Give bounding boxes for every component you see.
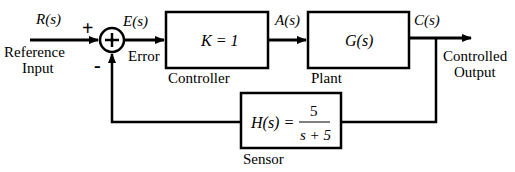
controller-expression: K = 1 [200,32,238,49]
output-signal-label: C(s) [414,12,440,29]
error-signal-label: E(s) [122,13,148,30]
minus-sign-label: - [94,54,101,76]
sensor-label: Sensor [243,151,284,167]
reference-input-label-line1: Reference [4,44,65,60]
error-label: Error [128,48,160,64]
reference-signal-label: R(s) [35,11,61,28]
controller-label: Controller [168,70,230,86]
summing-junction [100,28,124,52]
controlled-output-label-line2: Output [454,64,497,80]
plant-expression: G(s) [345,32,373,50]
sensor-numerator: 5 [310,103,318,119]
plant-label: Plant [311,70,343,86]
reference-input-label-line2: Input [22,60,54,76]
sensor-expression-lhs: H(s) = [250,114,294,132]
actuating-signal-label: A(s) [274,12,300,29]
controlled-output-label-line1: Controlled [443,48,508,64]
plus-sign-label: + [82,17,93,39]
sensor-denominator: s + 5 [300,127,331,143]
block-diagram: R(s) + - Reference Input E(s) Error K = … [0,0,515,172]
